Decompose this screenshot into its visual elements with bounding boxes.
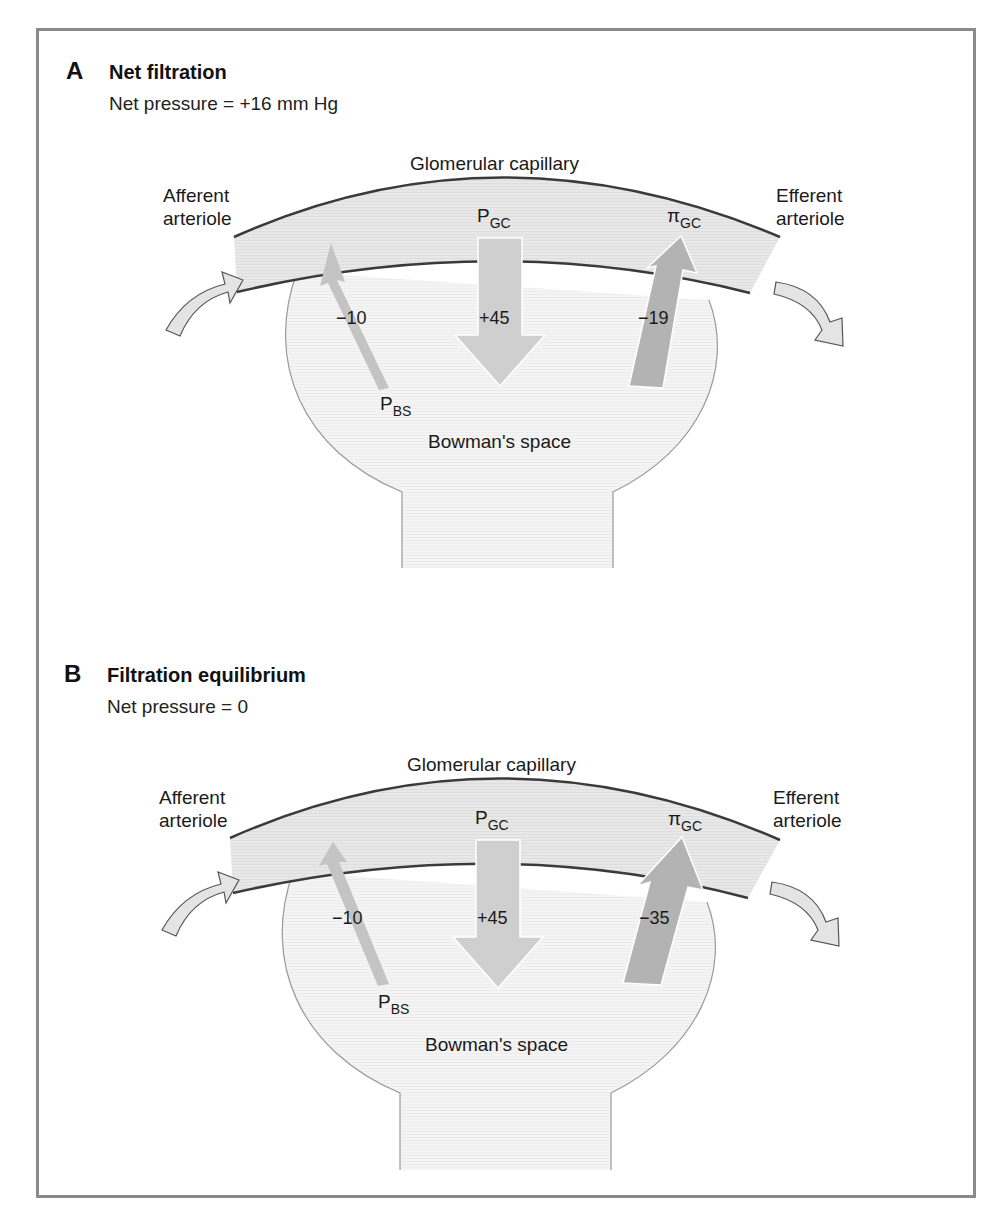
p-bs-value: −10: [336, 308, 367, 328]
capillary-label: Glomerular capillary: [410, 153, 579, 174]
afferent-label-line2: arteriole: [159, 810, 228, 831]
pi-gc-value: −35: [639, 908, 670, 928]
efferent-label-line1: Efferent: [776, 185, 843, 206]
afferent-label-line2: arteriole: [163, 208, 232, 229]
panel-letter: B: [64, 660, 81, 687]
p-gc-value: +45: [479, 308, 510, 328]
panel-title: Net filtration: [109, 61, 227, 83]
p-bs-value: −10: [332, 908, 363, 928]
p-gc-value: +45: [477, 908, 508, 928]
panel-letter: A: [66, 57, 83, 84]
efferent-label-line2: arteriole: [773, 810, 842, 831]
efferent-flow-arrow: [770, 882, 839, 946]
panel-b: B Filtration equilibrium Net pressure = …: [64, 660, 842, 1170]
bowmans-space-label: Bowman's space: [428, 431, 571, 452]
net-pressure-label: Net pressure = +16 mm Hg: [109, 93, 338, 114]
glomerular-filtration-diagram: A Net filtration Net pressure = +16 mm H…: [0, 0, 1003, 1218]
capillary-label: Glomerular capillary: [407, 754, 576, 775]
panel-a: A Net filtration Net pressure = +16 mm H…: [66, 57, 845, 568]
efferent-label-line2: arteriole: [776, 208, 845, 229]
afferent-flow-arrow: [162, 872, 239, 936]
net-pressure-label: Net pressure = 0: [107, 696, 248, 717]
pi-gc-value: −19: [638, 308, 669, 328]
afferent-flow-arrow: [166, 272, 243, 336]
panel-title: Filtration equilibrium: [107, 664, 306, 686]
afferent-label-line1: Afferent: [163, 185, 230, 206]
afferent-label-line1: Afferent: [159, 787, 226, 808]
bowmans-space-label: Bowman's space: [425, 1034, 568, 1055]
efferent-label-line1: Efferent: [773, 787, 840, 808]
efferent-flow-arrow: [774, 282, 843, 346]
